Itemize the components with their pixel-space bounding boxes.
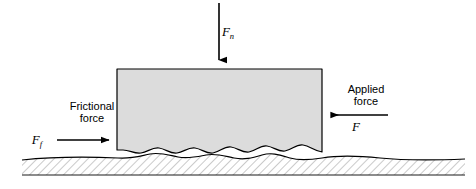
applied-force-caption-line1: Applied — [348, 83, 385, 95]
normal-force-subscript: n — [230, 31, 234, 41]
frictional-force-subscript: f — [40, 139, 44, 149]
diagram-canvas: Fn Applied force F Frictional force Ff — [0, 0, 476, 189]
frictional-force-caption-line1: Frictional — [70, 100, 115, 112]
frictional-force-symbol-label: Ff — [31, 132, 44, 149]
normal-force-arrow-group: Fn — [219, 3, 234, 60]
applied-force-symbol-label: F — [351, 119, 361, 134]
block — [117, 69, 322, 153]
friction-force-diagram: Fn Applied force F Frictional force Ff — [0, 0, 476, 189]
frictional-force-arrow-group: Frictional force Ff — [31, 100, 114, 149]
ground-surface — [18, 148, 470, 180]
applied-force-arrow-group: Applied force F — [331, 83, 388, 134]
frictional-force-caption-line2: force — [80, 112, 104, 124]
block-body — [117, 69, 322, 153]
normal-force-symbol-label: Fn — [221, 24, 234, 41]
applied-force-caption-line2: force — [354, 95, 378, 107]
